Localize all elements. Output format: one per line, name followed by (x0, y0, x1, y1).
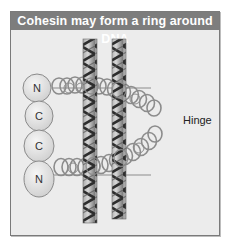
svg-text:N: N (35, 173, 43, 185)
upper-coiled-coil (52, 77, 161, 116)
head-domain-c-top: C (25, 101, 53, 131)
svg-text:C: C (35, 110, 43, 122)
head-domain-n-top: N (23, 74, 51, 102)
lower-coiled-coil (53, 126, 162, 176)
figure-frame: Cohesin may form a ring around DNA (10, 11, 220, 236)
dna-strand-right (112, 39, 126, 219)
diagram-canvas: N C C N Hinge (11, 30, 219, 235)
head-domain-c-bottom: C (24, 130, 54, 162)
svg-text:N: N (33, 82, 41, 94)
head-domain-n-bottom: N (24, 161, 54, 197)
svg-text:C: C (35, 140, 43, 152)
figure-title: Cohesin may form a ring around DNA (11, 12, 219, 30)
hinge-label: Hinge (183, 114, 212, 126)
dna-strand-left (83, 39, 97, 223)
